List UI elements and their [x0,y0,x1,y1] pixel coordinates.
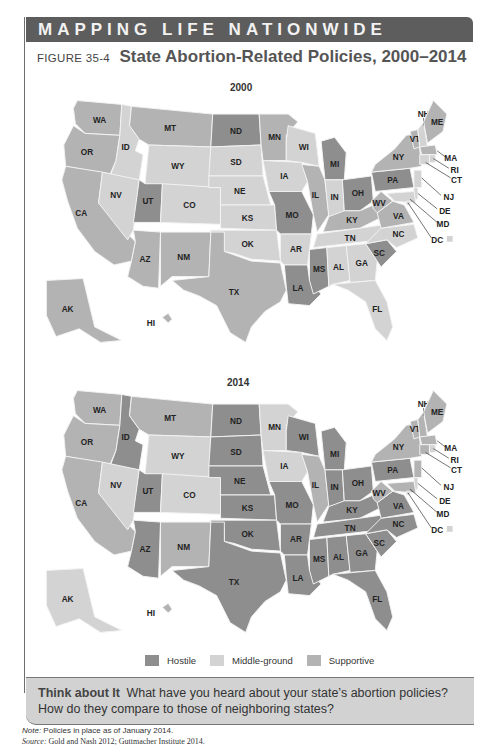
state-label: OH [352,479,364,488]
note-label: Note: [22,726,41,735]
state-label: KS [242,504,254,513]
state-label: WV [373,199,387,208]
state-sd: SD [209,145,263,176]
middle-ground-swatch [210,655,224,666]
state-label: DC [431,236,443,245]
state-label: NM [177,253,190,262]
state-label: ME [431,118,444,127]
state-mt: MT [130,106,213,147]
state-label: MO [285,211,299,220]
state-label: MD [437,510,450,519]
state-label: DE [439,497,451,506]
state-label: ND [230,127,242,136]
state-fl: FL [333,570,393,630]
state-mt: MT [130,396,213,437]
hostile-swatch [145,655,159,666]
state-label: DC [431,526,443,535]
state-label: WA [93,116,106,125]
state-nj: NJ [414,460,455,492]
state-fl: FL [333,280,393,340]
state-ms: MS [309,248,328,294]
state-label: GA [356,549,368,558]
state-ia: IA [263,161,308,192]
legend-label: Supportive [329,655,374,666]
state-label: NY [393,443,405,452]
state-label: TN [345,524,356,533]
state-label: MT [164,124,176,133]
state-label: AK [62,305,74,314]
state-label: SC [373,249,384,258]
source-label: Source: [22,737,47,746]
state-label: MI [330,450,339,459]
state-label: CO [183,491,196,500]
state-label: NM [177,543,190,552]
state-label: NV [110,481,122,490]
figure-notes: Note: Policies in place as of January 20… [22,726,205,747]
state-label: AR [290,245,302,254]
state-mi: MI [321,427,346,470]
legend-item-supportive: Supportive [307,655,374,666]
state-label: UT [142,197,153,206]
state-co: CO [161,474,221,515]
source-line: Source: Gold and Nash 2012; Guttmacher I… [22,737,205,748]
state-label: NE [234,187,246,196]
state-wy: WY [145,145,211,188]
state-label: CA [75,499,87,508]
state-wi: WI [286,416,319,457]
state-label: WY [171,162,185,171]
map-legend: Hostile Middle-ground Supportive [145,655,388,666]
state-label: AZ [140,545,151,554]
state-label: AL [333,263,344,272]
state-wi: WI [286,126,319,167]
state-hi: HI [147,313,172,328]
state-label: AK [62,595,74,604]
state-label: VA [393,212,404,221]
us-states-map: WAORCAIDNVMTWYUTAZCONMNDSDNEKSOKTXMNIAMO… [27,370,472,650]
state-label: IA [280,172,288,181]
state-label: RI [450,166,458,175]
state-label: WY [171,452,185,461]
state-me: ME [424,101,447,144]
state-label: TX [229,288,240,297]
state-oh: OH [342,466,373,501]
state-label: MN [268,133,281,142]
state-label: AL [333,553,344,562]
state-label: SD [230,448,241,457]
state-label: WI [299,143,309,152]
state-label: CT [451,176,462,185]
supportive-swatch [307,655,321,666]
banner-title: MAPPING LIFE NATIONWIDE [38,20,387,40]
state-label: ID [122,433,130,442]
state-label: OK [241,240,253,249]
state-ar: AR [280,234,311,265]
state-label: NC [393,520,405,529]
state-ak: AK [46,569,121,633]
state-wy: WY [145,435,211,478]
state-ia: IA [263,451,308,482]
think-about-it-box: Think about It What have you heard about… [26,677,474,725]
state-label: CO [183,201,196,210]
state-label: NC [393,230,405,239]
figure-heading: State Abortion-Related Policies, 2000–20… [119,47,466,66]
state-nd: ND [211,404,261,437]
source-text: Gold and Nash 2012; Guttmacher Institute… [49,737,205,746]
note-line: Note: Policies in place as of January 20… [22,726,205,737]
state-label: NJ [444,193,455,202]
state-label: WA [93,406,106,415]
state-ks: KS [220,205,276,230]
state-mi: MI [321,137,346,180]
state-label: KY [346,216,358,225]
state-label: OR [81,148,93,157]
state-label: MA [444,444,457,453]
state-ks: KS [220,495,276,520]
state-label: LA [292,574,303,583]
state-label: IN [331,483,339,492]
state-nj: NJ [414,170,455,202]
figure-number: FIGURE 35-4 [37,52,110,64]
state-label: OK [241,530,253,539]
state-label: CA [75,209,87,218]
state-co: CO [161,184,221,225]
state-label: UT [142,487,153,496]
state-label: KS [242,214,254,223]
section-banner: MAPPING LIFE NATIONWIDE [26,17,473,42]
